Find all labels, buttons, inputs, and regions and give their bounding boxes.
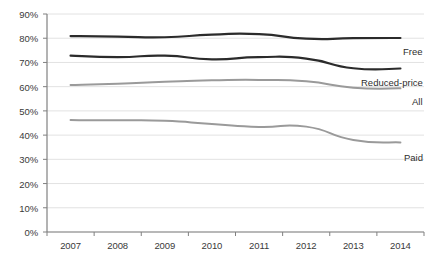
y-tick-label: 10% [4,202,38,213]
y-tick-label: 40% [4,130,38,141]
x-tick-label: 2008 [94,240,141,251]
x-tick-label: 2009 [141,240,188,251]
series-label-free: Free [403,46,423,57]
y-tick-label: 0% [4,227,38,238]
x-axis-ticks [47,232,424,236]
y-tick-label: 50% [4,105,38,116]
x-tick-label: 2013 [330,240,377,251]
y-tick-label: 20% [4,178,38,189]
y-tick-label: 90% [4,9,38,20]
series-label-paid: Paid [404,152,423,163]
gridlines [47,14,424,232]
x-tick-label: 2014 [377,240,424,251]
y-tick-label: 70% [4,57,38,68]
series-label-reduced-price: Reduced-price [361,77,423,88]
line-chart: 0%10%20%30%40%50%60%70%80%90% 2007200820… [0,0,433,262]
x-tick-label: 2012 [283,240,330,251]
y-tick-label: 80% [4,33,38,44]
y-tick-label: 30% [4,154,38,165]
x-tick-label: 2007 [47,240,94,251]
series-line-all [71,80,401,89]
chart-canvas [0,0,433,262]
x-tick-label: 2010 [188,240,235,251]
y-tick-label: 60% [4,81,38,92]
x-tick-label: 2011 [236,240,283,251]
series-line-paid [71,120,401,142]
series-label-all: All [412,96,423,107]
